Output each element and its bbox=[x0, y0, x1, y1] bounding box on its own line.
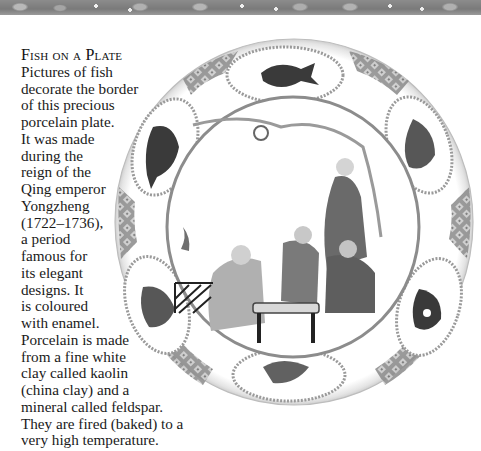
body-line: They are fired (baked) to a bbox=[21, 416, 221, 433]
body-line: very high temperature. bbox=[21, 432, 221, 449]
seated-figure-center bbox=[281, 241, 319, 305]
game-table-top bbox=[253, 303, 319, 313]
standing-figure-head bbox=[336, 158, 354, 176]
decorative-fish-border-strip bbox=[0, 0, 481, 15]
seated-figure-left-head bbox=[231, 245, 251, 265]
fish-lower-right-eye bbox=[423, 309, 431, 317]
seated-figure-right-head bbox=[339, 240, 357, 258]
seated-figure-center-head bbox=[294, 226, 312, 244]
porcelain-plate-image bbox=[113, 37, 475, 407]
